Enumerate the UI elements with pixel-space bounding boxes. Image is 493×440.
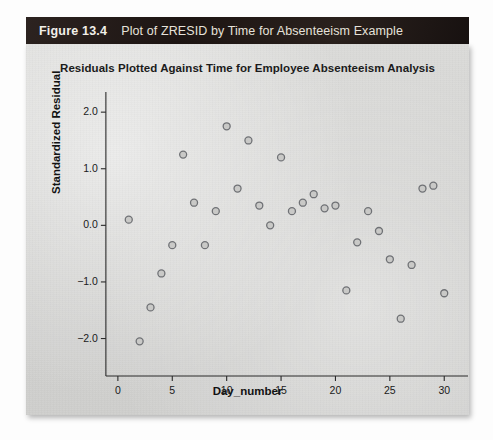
data-point (332, 202, 339, 209)
data-point (256, 202, 263, 209)
x-tick-label: 10 (207, 384, 247, 396)
data-point (321, 205, 328, 212)
y-tick-label: −1.0 (60, 275, 98, 287)
data-point (375, 228, 382, 235)
y-tick-label: 1.0 (60, 162, 98, 174)
data-point (234, 185, 241, 192)
data-point (419, 185, 426, 192)
data-point (169, 242, 176, 249)
data-point (180, 151, 187, 158)
y-tick-label: 0.0 (60, 218, 98, 230)
data-point (245, 137, 252, 144)
x-tick-label: 20 (315, 384, 355, 396)
data-point (310, 191, 317, 198)
figure-caption-bar: Figure 13.4 Plot of ZRESID by Time for A… (26, 17, 469, 44)
data-point (441, 290, 448, 297)
data-point-layer (125, 123, 447, 345)
data-point (191, 199, 198, 206)
data-point (201, 242, 208, 249)
figure-page: Figure 13.4 Plot of ZRESID by Time for A… (0, 0, 493, 440)
figure-panel: Residuals Plotted Against Time for Emplo… (26, 44, 469, 415)
data-point (158, 270, 165, 277)
plot-axes (101, 92, 468, 381)
data-point (278, 154, 285, 161)
data-point (430, 182, 437, 189)
x-tick-label: 15 (261, 384, 301, 396)
data-point (136, 338, 143, 345)
data-point (343, 287, 350, 294)
figure-caption-text: Plot of ZRESID by Time for Absenteeism E… (121, 24, 403, 38)
data-point (267, 222, 274, 229)
data-point (299, 199, 306, 206)
data-point (125, 216, 132, 223)
x-tick-label: 25 (370, 384, 410, 396)
data-point (365, 208, 372, 215)
y-tick-label: 2.0 (60, 105, 98, 117)
x-tick-label: 0 (98, 384, 138, 396)
data-point (212, 208, 219, 215)
data-point (147, 304, 154, 311)
data-point (354, 239, 361, 246)
figure-number: Figure 13.4 (39, 24, 107, 38)
x-tick-label: 5 (152, 384, 192, 396)
data-point (408, 261, 415, 268)
data-point (386, 256, 393, 263)
data-point (288, 208, 295, 215)
x-tick-label: 30 (424, 384, 464, 396)
y-tick-label: −2.0 (60, 332, 98, 344)
data-point (397, 315, 404, 322)
data-point (223, 123, 230, 130)
